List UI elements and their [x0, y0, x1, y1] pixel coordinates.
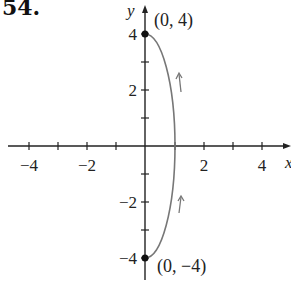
y-tick-label: 2 — [129, 81, 138, 100]
point-label-bottom: (0, −4) — [157, 256, 206, 277]
x-tick-label: 2 — [200, 156, 209, 175]
point-label-top: (0, 4) — [154, 10, 193, 31]
y-axis-label: y — [125, 1, 135, 20]
y-axis-arrow-icon — [142, 5, 148, 13]
endpoint-dot — [142, 31, 149, 38]
direction-arrow-icon — [176, 73, 182, 92]
x-axis: −4 −2 2 4 x — [8, 142, 291, 175]
y-tick-label: −2 — [119, 193, 137, 212]
direction-arrow-icon — [178, 196, 184, 213]
y-tick-label: 4 — [129, 25, 138, 44]
endpoint-dot — [142, 255, 149, 262]
y-tick-label: −4 — [119, 249, 138, 268]
x-axis-label: x — [284, 153, 291, 172]
x-tick-label: 4 — [258, 156, 267, 175]
parametric-plot: −4 −2 2 4 x 4 2 −2 −4 y — [0, 0, 291, 287]
x-tick-label: −2 — [78, 156, 96, 175]
y-axis: 4 2 −2 −4 y — [119, 1, 149, 280]
x-axis-arrow-icon — [283, 143, 291, 149]
x-tick-label: −4 — [20, 156, 39, 175]
